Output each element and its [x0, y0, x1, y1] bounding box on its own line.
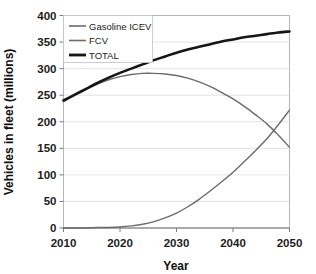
x-tick-label: 2050	[277, 237, 303, 249]
y-axis-title: Vehicles in fleet (millions)	[2, 49, 16, 196]
x-axis-title-text: Year	[163, 259, 189, 273]
y-tick-label: 50	[44, 195, 57, 207]
x-tick-label: 2030	[164, 237, 190, 249]
y-tick-label: 200	[37, 116, 56, 128]
line-chart: Vehicles in fleet (millions) 05010015020…	[0, 0, 316, 274]
series-line-fcv	[64, 110, 290, 228]
y-tick-label: 100	[37, 169, 56, 181]
x-tick-label: 2010	[51, 237, 77, 249]
legend-label-gasoline-icev: Gasoline ICEV	[89, 21, 152, 32]
y-axis: 050100150200250300350400	[37, 10, 63, 235]
chart-legend: Gasoline ICEVFCVTOTAL	[64, 16, 153, 63]
y-tick-label: 400	[37, 10, 56, 22]
y-tick-label: 350	[37, 36, 56, 48]
y-tick-label: 150	[37, 142, 56, 154]
y-tick-label: 300	[37, 63, 56, 75]
x-axis: 20102020203020402050	[51, 228, 303, 249]
y-tick-label: 250	[37, 89, 56, 101]
x-tick-label: 2020	[107, 237, 133, 249]
legend-label-fcv: FCV	[89, 35, 109, 46]
y-tick-label: 0	[50, 222, 56, 234]
chart-container: Vehicles in fleet (millions) 05010015020…	[0, 0, 316, 274]
legend-label-total: TOTAL	[89, 50, 119, 61]
x-tick-label: 2040	[220, 237, 246, 249]
y-axis-title-text: Vehicles in fleet (millions)	[2, 49, 16, 196]
